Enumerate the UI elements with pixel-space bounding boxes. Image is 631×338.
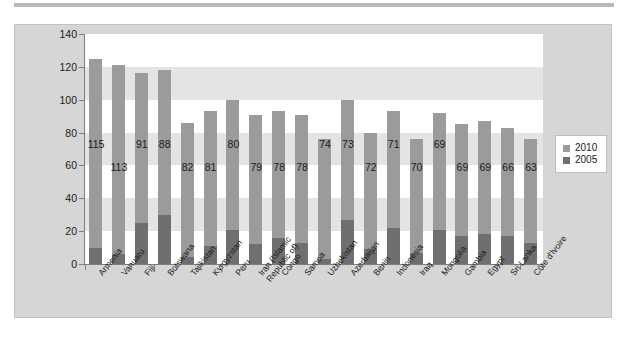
x-axis-tick-mark: [520, 265, 521, 270]
legend-label: 2005: [575, 155, 597, 165]
bar-data-label: 115: [82, 139, 110, 150]
x-axis-tick-mark: [291, 265, 292, 270]
x-axis-tick-mark: [131, 265, 132, 270]
y-axis-tick-label: 80: [31, 128, 77, 139]
x-axis-tick-mark: [268, 265, 269, 270]
bar-data-label: 71: [380, 139, 408, 150]
bar-group[interactable]: 91: [131, 34, 154, 264]
legend-swatch-icon: [563, 145, 570, 152]
bar-group[interactable]: 69: [474, 34, 497, 264]
y-axis-tick-label: 140: [31, 29, 77, 40]
x-axis-tick-mark: [497, 265, 498, 270]
x-axis-tick-mark: [474, 265, 475, 270]
x-axis-tick-mark: [154, 265, 155, 270]
bar-segment-2010[interactable]: [89, 59, 102, 264]
legend-item[interactable]: 2005: [563, 155, 597, 165]
bar-group[interactable]: 70: [406, 34, 429, 264]
x-axis-tick-mark: [222, 265, 223, 270]
x-axis-tick-mark: [108, 265, 109, 270]
x-axis-tick-mark: [543, 265, 544, 270]
bar-group[interactable]: 69: [451, 34, 474, 264]
bar-segment-2005[interactable]: [249, 244, 262, 264]
y-axis-tick-label: 40: [31, 193, 77, 204]
bar-group[interactable]: 73: [337, 34, 360, 264]
bar-group[interactable]: 80: [222, 34, 245, 264]
bar-segment-2005[interactable]: [433, 230, 446, 265]
plot-area: 1151139188828180797878747372717069696966…: [85, 34, 543, 264]
top-rule: [14, 3, 614, 7]
bar-data-label: 78: [288, 162, 316, 173]
bar-segment-2005[interactable]: [89, 248, 102, 264]
y-axis-tick-label: 100: [31, 95, 77, 106]
y-axis-tick-label: 20: [31, 226, 77, 237]
legend-swatch-icon: [563, 157, 570, 164]
bar-group[interactable]: 74: [314, 34, 337, 264]
x-axis-tick-mark: [360, 265, 361, 270]
bar-segment-2010[interactable]: [295, 115, 308, 265]
bar-data-label: 81: [197, 162, 225, 173]
y-axis-tick-mark: [79, 133, 85, 134]
legend-label: 2010: [575, 143, 597, 153]
x-axis-tick-mark: [451, 265, 452, 270]
y-axis-tick-label: 0: [31, 259, 77, 270]
x-axis-tick-mark: [314, 265, 315, 270]
bar-segment-2005[interactable]: [158, 215, 171, 264]
x-axis-tick-mark: [177, 265, 178, 270]
x-axis-category-label: Fiji: [143, 263, 157, 278]
chart-legend: 20102005: [555, 135, 607, 173]
bar-group[interactable]: 81: [200, 34, 223, 264]
bar-data-label: 70: [403, 162, 431, 173]
y-axis-tick-mark: [79, 100, 85, 101]
x-axis-tick-mark: [200, 265, 201, 270]
bar-group[interactable]: 63: [520, 34, 543, 264]
bar-group[interactable]: 78: [268, 34, 291, 264]
bar-data-label: 88: [151, 139, 179, 150]
y-axis-tick-mark: [79, 231, 85, 232]
y-axis-tick-mark: [79, 34, 85, 35]
bar-segment-2010[interactable]: [204, 111, 217, 264]
y-axis-tick-label: 60: [31, 160, 77, 171]
y-axis-tick-mark: [79, 165, 85, 166]
chart-container: 1151139188828180797878747372717069696966…: [14, 24, 612, 318]
bar-group[interactable]: 78: [291, 34, 314, 264]
y-axis-tick-mark: [79, 198, 85, 199]
bar-data-label: 80: [219, 139, 247, 150]
bar-group[interactable]: 71: [383, 34, 406, 264]
x-axis-tick-mark: [429, 265, 430, 270]
bar-group[interactable]: 79: [245, 34, 268, 264]
x-axis-tick-mark: [406, 265, 407, 270]
bar-data-label: 73: [334, 139, 362, 150]
x-axis-tick-mark: [337, 265, 338, 270]
bar-group[interactable]: 88: [154, 34, 177, 264]
bar-group[interactable]: 66: [497, 34, 520, 264]
bar-data-label: 63: [517, 162, 545, 173]
bar-group[interactable]: 115: [85, 34, 108, 264]
bar-group[interactable]: 82: [177, 34, 200, 264]
x-axis-tick-mark: [383, 265, 384, 270]
bar-group[interactable]: 113: [108, 34, 131, 264]
x-axis-tick-mark: [85, 265, 86, 270]
bar-group[interactable]: 69: [429, 34, 452, 264]
legend-item[interactable]: 2010: [563, 143, 597, 153]
y-axis-tick-mark: [79, 67, 85, 68]
bar-data-label: 69: [426, 139, 454, 150]
bar-group[interactable]: 72: [360, 34, 383, 264]
x-axis-tick-mark: [245, 265, 246, 270]
bar-data-label: 113: [105, 162, 133, 173]
bar-segment-2010[interactable]: [318, 139, 331, 264]
bar-data-label: 72: [357, 162, 385, 173]
bar-segment-2010[interactable]: [249, 115, 262, 265]
y-axis-tick-label: 120: [31, 62, 77, 73]
